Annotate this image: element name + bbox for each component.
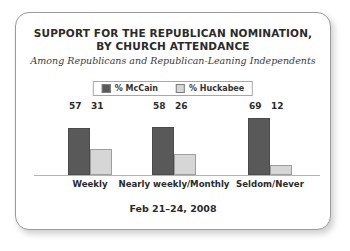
bar-value-label: 31 (91, 101, 104, 111)
legend-entry-huckabee: % Huckabee (176, 84, 244, 93)
bar-wrapper: 31 (90, 113, 112, 175)
category-label: Seldom/Never (236, 179, 304, 189)
bar-value-label: 57 (69, 101, 82, 111)
legend-swatch-icon-huckabee (176, 84, 185, 93)
bar-huckabee: 31 (90, 149, 112, 175)
axis-baseline (34, 175, 320, 176)
legend-entry-mccain: % McCain (102, 84, 158, 93)
bar-value-label: 58 (153, 101, 166, 111)
bar-wrapper: 26 (174, 113, 196, 175)
chart-title-line-1: SUPPORT FOR THE REPUBLICAN NOMINATION, (16, 27, 330, 40)
chart-card: SUPPORT FOR THE REPUBLICAN NOMINATION, B… (15, 12, 331, 230)
legend-label-mccain: % McCain (115, 84, 158, 93)
bar-wrapper: 58 (152, 113, 174, 175)
footer-date: Feb 21–24, 2008 (16, 203, 330, 214)
category-labels: WeeklyNearly weekly/MonthlySeldom/Never (34, 179, 320, 195)
bar-mccain: 57 (68, 128, 90, 175)
chart-subtitle: Among Republicans and Republican-Leaning… (16, 55, 330, 66)
bar-mccain: 69 (248, 118, 270, 175)
category-label: Nearly weekly/Monthly (119, 179, 230, 189)
bar-group: 5731 (67, 113, 113, 175)
chart-title-line-2: BY CHURCH ATTENDANCE (16, 40, 330, 53)
legend-label-huckabee: % Huckabee (189, 84, 244, 93)
bar-wrapper: 57 (68, 113, 90, 175)
bar-huckabee: 26 (174, 154, 196, 175)
bar-wrapper: 12 (270, 113, 292, 175)
bar-group: 5826 (151, 113, 197, 175)
title-block: SUPPORT FOR THE REPUBLICAN NOMINATION, B… (16, 27, 330, 66)
legend-swatch-icon-mccain (102, 84, 111, 93)
bar-huckabee: 12 (270, 165, 292, 175)
chart-legend: % McCain % Huckabee (93, 81, 253, 96)
bar-value-label: 26 (175, 101, 188, 111)
bar-group: 6912 (247, 113, 293, 175)
bar-value-label: 69 (249, 101, 262, 111)
bar-wrapper: 69 (248, 113, 270, 175)
category-label: Weekly (72, 179, 107, 189)
bar-value-label: 12 (271, 101, 284, 111)
bar-mccain: 58 (152, 127, 174, 175)
bar-plot-area: 573158266912 (34, 113, 314, 175)
